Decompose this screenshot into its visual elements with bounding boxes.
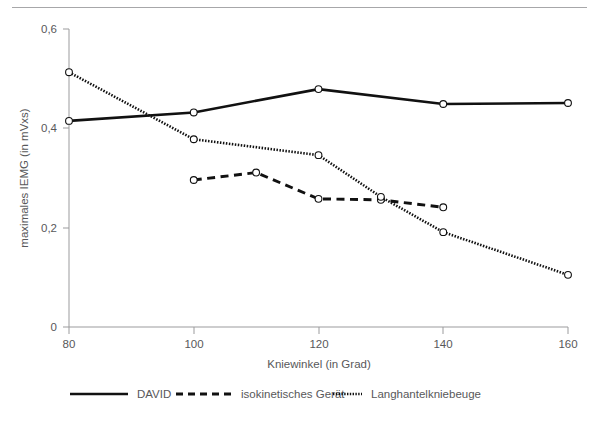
- y-tick-label-0_6: 0,6: [41, 23, 57, 35]
- x-tick-label-140: 140: [433, 338, 452, 350]
- series-line-1: [69, 89, 568, 121]
- data-point-marker: [190, 136, 197, 143]
- x-axis-ticks: [69, 327, 568, 334]
- series-1: [66, 86, 572, 125]
- data-point-marker: [253, 169, 260, 176]
- chart-axes: [63, 29, 568, 334]
- data-point-marker: [190, 109, 197, 116]
- data-point-marker: [377, 193, 384, 200]
- y-tick-label-0_2: 0,2: [41, 222, 57, 234]
- data-point-marker: [440, 101, 447, 108]
- data-point-marker: [315, 152, 322, 159]
- y-axis-tick-labels: 0,6 0,4 0,2 0: [41, 23, 58, 333]
- x-axis-title: Kniewinkel (in Grad): [267, 358, 371, 370]
- legend-item-isokinetisches-geraet[interactable]: isokinetisches Gerät: [176, 388, 345, 400]
- legend-item-david[interactable]: DAVID: [70, 388, 171, 400]
- data-point-marker: [315, 195, 322, 202]
- x-tick-label-120: 120: [309, 338, 328, 350]
- chart-series-layer: [66, 69, 572, 278]
- data-point-marker: [66, 117, 73, 124]
- legend-label-david: DAVID: [137, 388, 171, 400]
- line-chart-canvas: 0,6 0,4 0,2 0 80 100 120 140 160 Kniewin…: [0, 0, 599, 422]
- series-3: [66, 69, 572, 278]
- data-point-marker: [440, 204, 447, 211]
- x-tick-label-80: 80: [63, 338, 76, 350]
- x-tick-label-160: 160: [558, 338, 577, 350]
- y-tick-label-0: 0: [51, 321, 57, 333]
- legend-label-langhantelkniebeuge: Langhantelkniebeuge: [371, 388, 481, 400]
- chart-legend: DAVID isokinetisches Gerät Langhantelkni…: [70, 388, 481, 400]
- y-tick-label-0_4: 0,4: [41, 122, 58, 134]
- chart-figure: 0,6 0,4 0,2 0 80 100 120 140 160 Kniewin…: [0, 0, 599, 422]
- series-2: [190, 169, 446, 211]
- legend-item-langhantelkniebeuge[interactable]: Langhantelkniebeuge: [333, 388, 481, 400]
- x-tick-label-100: 100: [184, 338, 203, 350]
- data-point-marker: [66, 69, 73, 76]
- data-point-marker: [565, 271, 572, 278]
- data-point-marker: [190, 177, 197, 184]
- x-axis-tick-labels: 80 100 120 140 160: [63, 338, 578, 350]
- y-axis-title: maximales IEMG (in mVxs): [18, 108, 30, 247]
- data-point-marker: [565, 100, 572, 107]
- data-point-marker: [315, 86, 322, 93]
- legend-label-isokinetisches-geraet: isokinetisches Gerät: [241, 388, 345, 400]
- data-point-marker: [440, 229, 447, 236]
